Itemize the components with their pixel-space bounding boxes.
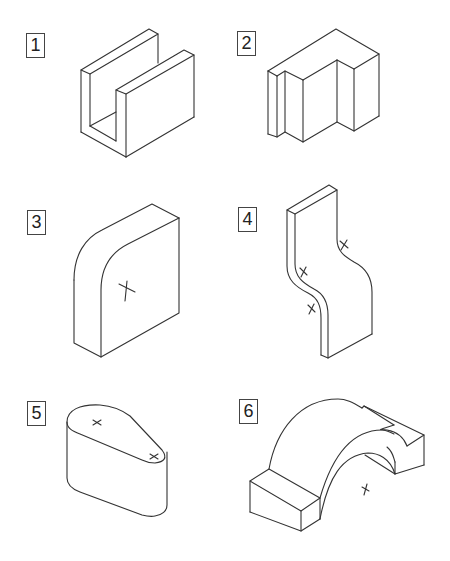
figures-canvas (0, 0, 450, 561)
figure-1-u-channel (81, 29, 194, 157)
figure-6-arch-bridge (250, 399, 424, 531)
figure-3-rounded-block (74, 204, 179, 357)
figure-2-stepped-block (268, 29, 379, 142)
figure-5-tapered-block (67, 405, 167, 517)
center-mark-icon (362, 484, 369, 495)
figure-4-s-plate (287, 185, 372, 358)
